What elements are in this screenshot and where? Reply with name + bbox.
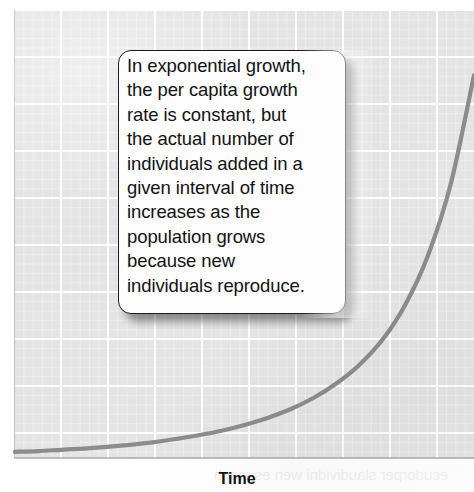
- callout-line-1: In exponential growth,: [127, 54, 343, 78]
- callout-line-5: individuals added in a: [127, 152, 343, 176]
- callout-text: In exponential growth, the per capita gr…: [127, 54, 343, 298]
- callout-line-9: because new: [127, 249, 343, 273]
- callout-line-4: the actual number of: [127, 127, 343, 151]
- callout-line-10: individuals reproduce.: [127, 274, 343, 298]
- callout-line-8: population grows: [127, 225, 343, 249]
- exponential-growth-figure: In exponential growth, the per capita gr…: [0, 0, 474, 492]
- callout-line-7: increases as the: [127, 200, 343, 224]
- callout-line-2: the per capita growth: [127, 78, 343, 102]
- callout-line-6: given interval of time: [127, 176, 343, 200]
- callout-line-3: rate is constant, but: [127, 103, 343, 127]
- x-axis-title: Time: [0, 470, 474, 488]
